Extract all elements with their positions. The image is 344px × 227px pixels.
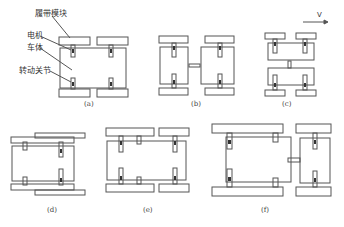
- vehicle-body: [300, 138, 330, 183]
- caption-e: (e): [143, 206, 153, 214]
- config-b: [159, 36, 234, 95]
- track-module: [59, 37, 90, 45]
- track-module: [159, 36, 188, 43]
- track-module: [212, 187, 283, 196]
- track-module: [265, 33, 285, 39]
- track-module: [97, 89, 128, 97]
- track-module: [35, 190, 85, 195]
- caption-a: (a): [84, 100, 94, 108]
- config-f: [212, 124, 331, 196]
- track-module: [159, 88, 188, 95]
- track-module: [205, 36, 234, 43]
- vehicle-body: [12, 146, 74, 181]
- track-module: [59, 89, 90, 97]
- caption-c: (c): [282, 100, 291, 108]
- diagram-canvas: [0, 0, 344, 227]
- track-module: [97, 37, 128, 45]
- motor-joint: [303, 75, 307, 90]
- track-module: [296, 90, 316, 96]
- vehicle-body: [226, 137, 291, 182]
- motor-joint: [273, 75, 277, 90]
- label-joint: 转动关节: [19, 67, 51, 75]
- caption-b: (b): [191, 100, 201, 108]
- caption-f: (f): [261, 206, 269, 214]
- track-module: [159, 128, 189, 136]
- track-module: [11, 184, 74, 190]
- label-velocity: V: [317, 12, 322, 19]
- track-module: [296, 124, 331, 133]
- track-module: [106, 128, 154, 136]
- track-module: [106, 184, 154, 192]
- track-module: [205, 88, 234, 95]
- config-a: [40, 16, 128, 97]
- motor-joint: [59, 169, 63, 185]
- center-joint: [288, 61, 291, 68]
- label-motor: 电机: [27, 32, 43, 40]
- motor-joint: [137, 136, 141, 144]
- track-module: [296, 187, 331, 196]
- label-track-module: 履带模块: [35, 10, 67, 18]
- config-d: [11, 133, 85, 195]
- config-e: [106, 128, 189, 192]
- track-module: [296, 33, 316, 39]
- center-joint: [288, 158, 300, 162]
- caption-d: (d): [47, 206, 57, 214]
- track-module: [265, 90, 285, 96]
- vehicle-body: [160, 47, 188, 84]
- label-body: 车体: [27, 44, 43, 52]
- track-module: [159, 184, 189, 192]
- center-joint: [189, 64, 200, 67]
- track-module: [212, 124, 283, 133]
